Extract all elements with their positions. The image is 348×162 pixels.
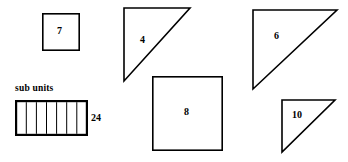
triangle-10-shape bbox=[281, 99, 336, 153]
triangle-6-shape bbox=[252, 9, 338, 90]
square-8-label: 8 bbox=[184, 107, 189, 117]
sub-units-caption: sub units bbox=[15, 84, 54, 94]
square-7-label: 7 bbox=[57, 26, 62, 36]
triangle-4-shape bbox=[123, 7, 191, 82]
figure-canvas: 7 4 6 sub units 24 8 10 bbox=[0, 0, 348, 162]
triangle-4-label: 4 bbox=[140, 35, 145, 45]
segmented-rectangle-24-shape bbox=[15, 100, 88, 136]
triangle-10-label: 10 bbox=[292, 110, 302, 120]
rectangle-24-label: 24 bbox=[91, 113, 101, 123]
triangle-6-label: 6 bbox=[274, 31, 279, 41]
